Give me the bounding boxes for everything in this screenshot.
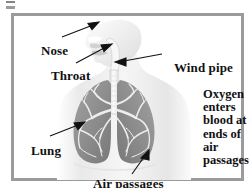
lung-leader-line xyxy=(50,125,78,136)
throat-leader-line xyxy=(76,47,106,63)
figure-frame: Nose Throat Wind pipe Lung Air passages … xyxy=(11,13,244,181)
throat-arrowhead xyxy=(101,44,112,52)
nose-arrowhead xyxy=(88,22,99,30)
windpipe-arrowhead xyxy=(115,58,126,66)
lung-arrowhead xyxy=(74,122,85,130)
oxygen-callout-text-block: Oxygen enters blood at ends of air passa… xyxy=(203,88,251,167)
label-air-passages: Air passages xyxy=(93,176,164,188)
windpipe-leader-line xyxy=(124,54,162,61)
air-passages-leader-line xyxy=(132,157,144,174)
oxygen-callout-line-6: passages xyxy=(203,154,251,167)
oxygen-callout-line-4: ends of xyxy=(203,128,251,141)
page-corner-artifact xyxy=(6,1,15,9)
air-passages-arrowhead xyxy=(141,150,149,160)
label-wind-pipe: Wind pipe xyxy=(174,60,233,76)
label-throat: Throat xyxy=(51,68,90,84)
label-nose: Nose xyxy=(41,43,68,59)
respiratory-system-figure-page: Nose Throat Wind pipe Lung Air passages … xyxy=(0,0,251,188)
nose-leader-line xyxy=(62,25,93,37)
oxygen-callout-line-3: blood at xyxy=(203,114,251,127)
label-lung: Lung xyxy=(31,143,61,159)
